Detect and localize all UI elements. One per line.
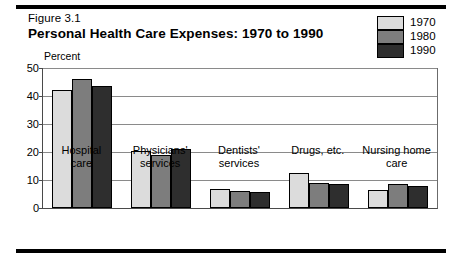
x-axis-category-label: Nursing home care <box>347 144 446 170</box>
bar-1980 <box>309 183 329 208</box>
legend-item: 1970 <box>377 16 447 30</box>
plot-area: 01020304050 <box>42 68 438 209</box>
y-axis-tick-label: 50 <box>27 68 39 69</box>
bar-group <box>52 68 112 208</box>
bottom-divider-rule <box>16 249 446 253</box>
bar-1990 <box>329 184 349 208</box>
figure-title: Personal Health Care Expenses: 1970 to 1… <box>28 26 323 41</box>
bar-1980 <box>230 191 250 208</box>
legend-item: 1990 <box>377 44 447 58</box>
legend-item: 1980 <box>377 30 447 44</box>
legend-label: 1980 <box>410 29 436 43</box>
bar-1970 <box>368 190 388 208</box>
chart-legend: 197019801990 <box>377 16 447 60</box>
legend-swatch-1990 <box>377 44 404 58</box>
y-axis-unit-label: Percent <box>44 50 80 62</box>
y-axis-tick-label: 10 <box>27 180 39 181</box>
legend-label: 1990 <box>410 43 436 57</box>
bar-1990 <box>408 186 428 208</box>
figure-number: Figure 3.1 <box>28 12 81 24</box>
bar-1990 <box>250 192 270 208</box>
y-axis-tick-label: 0 <box>33 208 39 209</box>
bar-group <box>289 68 349 208</box>
figure-container: Figure 3.1 Personal Health Care Expenses… <box>0 0 462 262</box>
y-axis-tick-label: 30 <box>27 124 39 125</box>
legend-label: 1970 <box>410 15 436 29</box>
y-axis-tick-mark <box>39 208 43 209</box>
bar-group <box>368 68 428 208</box>
legend-swatch-1970 <box>377 16 404 30</box>
bar-1970 <box>289 173 309 208</box>
bar-1970 <box>210 189 230 208</box>
bars-layer <box>43 68 437 208</box>
bar-group <box>210 68 270 208</box>
bar-1980 <box>388 184 408 208</box>
y-axis-tick-label: 40 <box>27 96 39 97</box>
bar-group <box>131 68 191 208</box>
top-divider-rule <box>16 5 446 9</box>
legend-swatch-1980 <box>377 30 404 44</box>
